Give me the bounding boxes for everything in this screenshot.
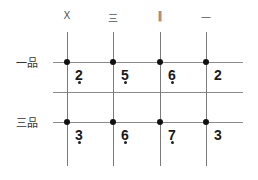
node-dot: [110, 59, 116, 65]
cell-value: 7: [165, 127, 179, 144]
node-dot: [64, 119, 70, 125]
node-dot: [157, 59, 163, 65]
node-dot: [203, 119, 209, 125]
column-label: ‖: [150, 10, 170, 21]
cell-value: 2: [72, 67, 86, 84]
grid-line-horizontal: [53, 122, 243, 123]
grid-line-horizontal: [53, 92, 243, 93]
column-label: 一: [196, 10, 216, 25]
node-dot: [203, 59, 209, 65]
cell-value: 2: [211, 67, 225, 83]
cell-value: 3: [211, 127, 225, 143]
column-label: X: [57, 10, 77, 21]
cell-value: 6: [165, 67, 179, 84]
node-dot: [64, 59, 70, 65]
cell-value: 5: [118, 67, 132, 84]
grid-line-horizontal: [53, 62, 243, 63]
node-dot: [110, 119, 116, 125]
grid-line-vertical: [160, 32, 161, 166]
node-dot: [157, 119, 163, 125]
row-label: 一品: [16, 54, 38, 70]
column-label: 三: [103, 10, 123, 25]
grid-line-vertical: [67, 32, 68, 166]
grid-line-vertical: [113, 32, 114, 166]
grid-line-vertical: [206, 32, 207, 166]
row-label: 三品: [16, 114, 38, 130]
cell-value: 6: [118, 127, 132, 144]
cell-value: 3: [72, 127, 86, 144]
